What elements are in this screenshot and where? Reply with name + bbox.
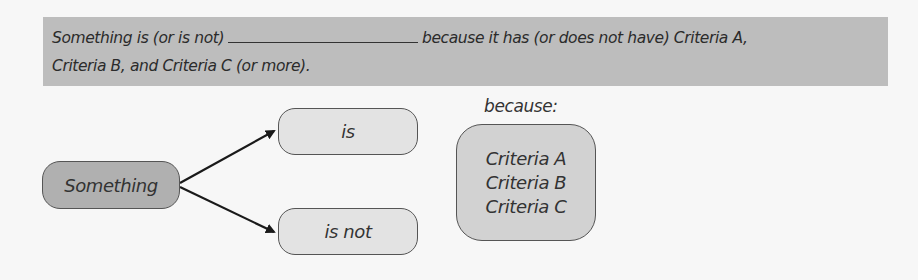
because-label: because: [484,96,558,116]
node-something: Something [42,161,180,209]
node-is-not: is not [278,208,418,255]
node-is-not-label: is not [324,221,371,242]
node-something-label: Something [64,175,158,196]
arrow-to-is [180,131,274,183]
node-is: is [278,108,418,155]
arrow-to-is-not [180,187,274,232]
criteria-item: Criteria C [486,195,567,219]
criteria-item: Criteria B [486,171,567,195]
criteria-box: Criteria A Criteria B Criteria C [456,124,596,241]
criteria-item: Criteria A [486,147,567,171]
node-is-label: is [341,121,355,142]
